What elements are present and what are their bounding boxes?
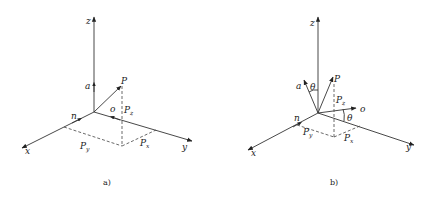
z-axis-label: z (85, 16, 91, 26)
px-label-sub: x (350, 137, 354, 144)
p-vector-label: P (120, 76, 128, 86)
p-vector-label: P (333, 74, 341, 84)
py-projection (64, 127, 122, 146)
theta-o-label: θ (347, 113, 353, 123)
py-label-sub: y (308, 131, 313, 139)
p-vector (318, 77, 333, 113)
x-axis-label: x (251, 148, 256, 158)
py-label-sub: y (85, 145, 90, 153)
n-vector-arrow (293, 123, 300, 127)
px-label: Px (139, 138, 150, 149)
z-axis-label: z (309, 18, 315, 28)
y-axis-label: y (181, 142, 188, 152)
o-vector-label: o (360, 104, 366, 114)
py-label: Py (79, 141, 90, 153)
y-axis-label: y (405, 142, 412, 152)
pz-label-sub: z (129, 109, 134, 116)
pz-label: Pz (335, 95, 346, 106)
panel-a: z x y a n o P Pz Py Px a) (22, 16, 192, 187)
o-vector-arrow (112, 117, 120, 120)
a-vector-label: a (296, 81, 301, 91)
pz-label-sub: z (341, 99, 346, 106)
y-axis (94, 112, 192, 141)
caption-b: b) (330, 178, 338, 187)
o-vector-label: o (110, 104, 116, 114)
p-vector (94, 86, 121, 112)
x-axis-label: x (25, 146, 30, 156)
pz-label: Pz (123, 105, 134, 116)
n-vector-label: n (294, 113, 300, 123)
theta-a-label: θ (310, 82, 316, 92)
py-label: Py (302, 127, 313, 139)
panel-b: z x y a n o P θ θ Pz Py Px b) (248, 17, 414, 187)
px-label-sub: x (146, 142, 150, 149)
px-label: Px (343, 133, 354, 144)
n-vector-label: n (71, 111, 77, 121)
caption-a: a) (103, 178, 111, 187)
diagram-canvas: z x y a n o P Pz Py Px a) z x y a (0, 0, 436, 199)
px-projection (122, 130, 156, 146)
theta-arc-o (343, 109, 344, 121)
a-vector-label: a (85, 81, 90, 91)
y-axis (318, 113, 414, 145)
